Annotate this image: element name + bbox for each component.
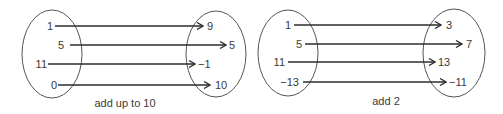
range-value: 3 [446,19,452,31]
domain-value: 5 [58,39,64,51]
range-value: 13 [438,56,450,68]
range-value: 10 [215,79,227,91]
mapping-diagrams: 1 5 11 0 9 5 −1 10 add up to 10 1 5 11 −… [0,0,503,114]
domain-value: 11 [274,56,285,68]
domain-value: 1 [47,20,53,32]
domain-value: 11 [36,58,47,70]
domain-value: 0 [51,79,57,91]
range-value: 5 [229,39,235,51]
range-value: −11 [449,76,467,88]
diagram-caption: add 2 [372,95,400,107]
domain-value: 5 [296,38,302,50]
range-value: 7 [466,38,472,50]
diagram-add-2: 1 5 11 −13 3 7 13 −11 add 2 [258,9,485,107]
range-value: 9 [207,20,213,32]
domain-value: 1 [285,19,291,31]
domain-value: −13 [280,76,299,88]
diagram-caption: add up to 10 [94,97,155,109]
range-value: −1 [198,58,211,70]
diagram-add-up-to-10: 1 5 11 0 9 5 −1 10 add up to 10 [22,10,246,109]
